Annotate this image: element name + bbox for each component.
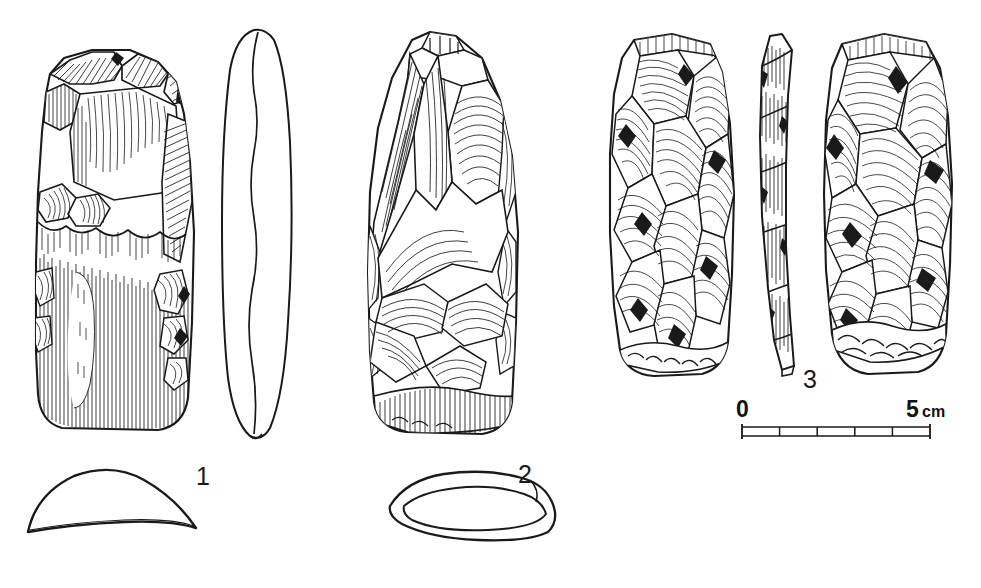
figure-1-face-view (18, 22, 213, 452)
figure-1-cross-section-view (20, 466, 210, 542)
figure-3-side-profile-view (752, 26, 808, 376)
figure-3-face-left-view (598, 24, 748, 384)
figure-2-cross-section-view (378, 466, 578, 546)
figure-2-label: 2 (518, 462, 532, 487)
figure-3-face-right-view (812, 24, 962, 384)
figure-1-label: 1 (196, 464, 210, 489)
scale-bar-start-label: 0 (736, 398, 749, 421)
illustration-plate: 1 (0, 0, 981, 588)
scale-bar-unit-label: cm (922, 404, 945, 420)
scale-bar-graphic (740, 422, 940, 444)
scale-bar-end-label: 5 (906, 398, 919, 421)
figure-1-lateral-profile-view (214, 22, 306, 452)
figure-2-face-view (352, 22, 537, 452)
figure-3-label: 3 (803, 367, 817, 392)
